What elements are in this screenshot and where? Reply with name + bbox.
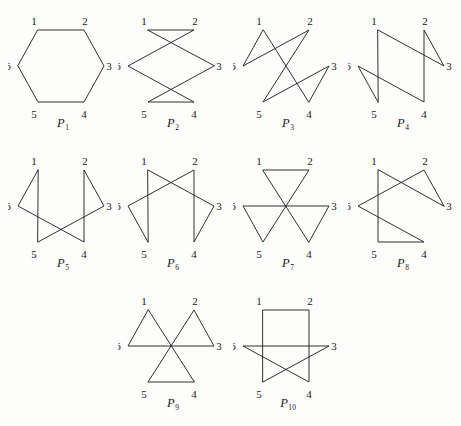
polygon-edges [358, 170, 444, 242]
polygon-edges [358, 30, 444, 102]
vertex-label-1: 1 [371, 155, 377, 167]
vertex-label-1: 1 [256, 295, 262, 307]
caption-subscript: 3 [290, 123, 294, 132]
caption-base: P [280, 396, 288, 410]
caption-base: P [282, 256, 290, 270]
vertex-label-3: 3 [216, 200, 222, 212]
caption-base: P [397, 256, 405, 270]
vertex-label-1: 1 [256, 155, 262, 167]
caption-base: P [167, 116, 175, 130]
panel-caption-p1: P1 [8, 116, 118, 131]
panel-caption-p4: P4 [348, 116, 458, 131]
polygon-drawing-p6: 123456 [118, 148, 228, 258]
polygon-drawing-p2: 123456 [118, 8, 228, 118]
polygon-edges [243, 170, 329, 242]
polygon-edges [18, 170, 104, 242]
vertex-label-2: 2 [192, 15, 198, 27]
panel-caption-p10: P10 [233, 396, 343, 411]
panel-caption-p8: P8 [348, 256, 458, 271]
vertex-label-6: 6 [233, 60, 236, 72]
vertex-label-2: 2 [192, 295, 198, 307]
polygon-panel-p4: 123456P4 [348, 8, 458, 144]
polygon-panel-p5: 123456P5 [8, 148, 118, 284]
polygon-panel-p6: 123456P6 [118, 148, 228, 284]
panel-caption-p7: P7 [233, 256, 343, 271]
vertex-label-3: 3 [216, 340, 222, 352]
vertex-label-2: 2 [192, 155, 198, 167]
vertex-label-2: 2 [82, 155, 88, 167]
vertex-label-3: 3 [106, 200, 112, 212]
polygon-edges [128, 30, 214, 102]
caption-base: P [167, 256, 175, 270]
vertex-label-6: 6 [118, 60, 121, 72]
polygon-drawing-p5: 123456 [8, 148, 118, 258]
vertex-label-6: 6 [233, 200, 236, 212]
vertex-label-3: 3 [106, 60, 112, 72]
caption-base: P [397, 116, 405, 130]
vertex-label-6: 6 [233, 340, 236, 352]
vertex-label-2: 2 [307, 295, 313, 307]
polygon-edges [243, 30, 329, 102]
caption-subscript: 4 [405, 123, 409, 132]
caption-base: P [57, 116, 65, 130]
vertex-label-1: 1 [31, 155, 37, 167]
polygon-panel-p10: 123456P10 [233, 288, 343, 424]
panel-caption-p9: P9 [118, 396, 228, 411]
vertex-label-3: 3 [446, 60, 452, 72]
polygon-edges [128, 170, 214, 242]
caption-base: P [167, 396, 175, 410]
caption-subscript: 8 [405, 263, 409, 272]
vertex-label-3: 3 [331, 60, 337, 72]
caption-base: P [282, 116, 290, 130]
vertex-label-3: 3 [216, 60, 222, 72]
polygon-edges [243, 310, 329, 382]
vertex-label-2: 2 [422, 155, 428, 167]
vertex-label-2: 2 [422, 15, 428, 27]
vertex-label-6: 6 [348, 200, 351, 212]
vertex-label-2: 2 [307, 15, 313, 27]
polygon-drawing-p10: 123456 [233, 288, 343, 398]
polygon-panel-p9: 123456P9 [118, 288, 228, 424]
vertex-label-3: 3 [446, 200, 452, 212]
vertex-label-2: 2 [82, 15, 88, 27]
vertex-label-6: 6 [118, 200, 121, 212]
polygon-panel-p3: 123456P3 [233, 8, 343, 144]
vertex-label-1: 1 [371, 15, 377, 27]
caption-subscript: 2 [175, 123, 179, 132]
vertex-label-1: 1 [256, 15, 262, 27]
polygon-drawing-p7: 123456 [233, 148, 343, 258]
polygon-panel-p8: 123456P8 [348, 148, 458, 284]
vertex-label-1: 1 [141, 155, 147, 167]
panel-caption-p2: P2 [118, 116, 228, 131]
polygon-panel-p7: 123456P7 [233, 148, 343, 284]
polygon-edges [18, 30, 104, 102]
caption-subscript: 1 [65, 123, 69, 132]
vertex-label-2: 2 [307, 155, 313, 167]
polygon-drawing-p4: 123456 [348, 8, 458, 118]
panel-caption-p6: P6 [118, 256, 228, 271]
polygon-panel-p2: 123456P2 [118, 8, 228, 144]
vertex-label-6: 6 [348, 60, 351, 72]
caption-subscript: 6 [175, 263, 179, 272]
caption-base: P [57, 256, 65, 270]
vertex-label-6: 6 [118, 340, 121, 352]
vertex-label-1: 1 [141, 295, 147, 307]
polygon-edges [128, 310, 214, 382]
caption-subscript: 5 [65, 263, 69, 272]
polygon-drawing-p8: 123456 [348, 148, 458, 258]
polygon-drawing-p9: 123456 [118, 288, 228, 398]
polygon-drawing-p1: 123456 [8, 8, 118, 118]
polygon-drawing-p3: 123456 [233, 8, 343, 118]
panel-caption-p3: P3 [233, 116, 343, 131]
vertex-label-1: 1 [141, 15, 147, 27]
vertex-label-3: 3 [331, 200, 337, 212]
vertex-label-6: 6 [8, 60, 11, 72]
vertex-label-1: 1 [31, 15, 37, 27]
polygon-panel-p1: 123456P1 [8, 8, 118, 144]
vertex-label-3: 3 [331, 340, 337, 352]
vertex-label-6: 6 [8, 200, 11, 212]
caption-subscript: 10 [288, 403, 296, 412]
figure-sheet: 123456P1123456P2123456P3123456P4123456P5… [0, 0, 461, 426]
panel-caption-p5: P5 [8, 256, 118, 271]
caption-subscript: 7 [290, 263, 294, 272]
